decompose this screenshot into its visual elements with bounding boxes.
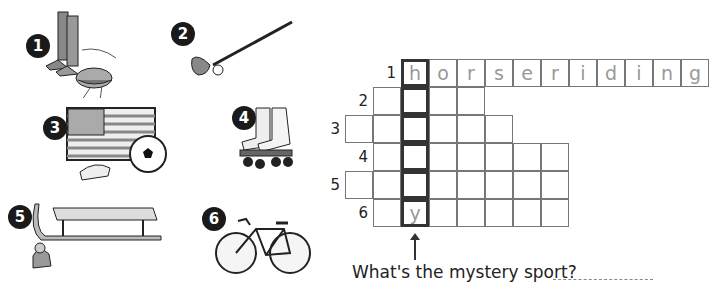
cell-1-3[interactable]: r — [457, 59, 485, 87]
cell-5-7[interactable] — [513, 171, 541, 199]
cell-3-2[interactable] — [373, 115, 401, 143]
cell-3-5[interactable] — [457, 115, 485, 143]
cell-1-9[interactable]: i — [625, 59, 653, 87]
bicycle-icon — [200, 205, 315, 280]
cell-4-7[interactable] — [541, 143, 569, 171]
cell-1-7[interactable]: i — [569, 59, 597, 87]
picture-3: 3 — [40, 104, 170, 189]
cell-6-4[interactable] — [457, 199, 485, 227]
cell-1-11[interactable]: g — [681, 59, 709, 87]
cell-5-5[interactable] — [457, 171, 485, 199]
riding-gear-icon — [20, 8, 130, 98]
picture-6: 6 — [200, 205, 315, 280]
cell-5-3[interactable] — [401, 171, 429, 199]
golf-club-icon — [168, 15, 298, 85]
up-arrow-icon — [414, 236, 416, 260]
cell-6-3[interactable] — [429, 199, 457, 227]
cell-5-1[interactable] — [345, 171, 373, 199]
cell-6-2[interactable]: y — [401, 199, 429, 227]
cell-1-2[interactable]: o — [429, 59, 457, 87]
cell-3-3[interactable] — [401, 115, 429, 143]
picture-4: 4 — [230, 104, 310, 179]
cell-5-4[interactable] — [429, 171, 457, 199]
picture-1: 1 — [20, 8, 130, 98]
row-number-3: 3 — [320, 120, 340, 138]
cell-5-6[interactable] — [485, 171, 513, 199]
cell-4-3[interactable] — [429, 143, 457, 171]
american-football-soccer-icon — [40, 104, 170, 189]
sledge-icon — [5, 200, 165, 275]
cell-1-4[interactable]: s — [485, 59, 513, 87]
picture-5: 5 — [5, 200, 165, 275]
cell-4-4[interactable] — [457, 143, 485, 171]
cell-3-1[interactable] — [345, 115, 373, 143]
cell-5-8[interactable] — [541, 171, 569, 199]
mystery-question: What's the mystery sport? — [352, 262, 577, 282]
cell-6-7[interactable] — [541, 199, 569, 227]
cell-2-2[interactable] — [401, 87, 429, 115]
cell-6-1[interactable] — [373, 199, 401, 227]
cell-1-1[interactable]: h — [401, 59, 429, 87]
cell-1-10[interactable]: n — [653, 59, 681, 87]
cell-1-6[interactable]: r — [541, 59, 569, 87]
cell-4-2[interactable] — [401, 143, 429, 171]
cell-2-1[interactable] — [373, 87, 401, 115]
cell-4-6[interactable] — [513, 143, 541, 171]
row-number-4: 4 — [348, 148, 368, 166]
cell-4-5[interactable] — [485, 143, 513, 171]
row-number-6: 6 — [348, 204, 368, 222]
roller-skates-icon — [230, 104, 310, 179]
row-number-2: 2 — [348, 92, 368, 110]
cell-6-6[interactable] — [513, 199, 541, 227]
cell-1-5[interactable]: e — [513, 59, 541, 87]
cell-3-4[interactable] — [429, 115, 457, 143]
cell-6-5[interactable] — [485, 199, 513, 227]
cell-4-1[interactable] — [373, 143, 401, 171]
picture-2: 2 — [168, 15, 298, 85]
cell-2-4[interactable] — [457, 87, 485, 115]
answer-field[interactable] — [553, 279, 653, 280]
cell-1-8[interactable]: d — [597, 59, 625, 87]
row-number-1: 1 — [376, 64, 396, 82]
cell-3-6[interactable] — [485, 115, 513, 143]
cell-5-2[interactable] — [373, 171, 401, 199]
row-number-5: 5 — [320, 176, 340, 194]
cell-2-3[interactable] — [429, 87, 457, 115]
